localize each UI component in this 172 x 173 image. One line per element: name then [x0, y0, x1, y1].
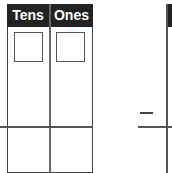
column-header-ones: Ones [50, 4, 93, 27]
minus-sign [140, 112, 153, 114]
answer-box-ones[interactable] [56, 32, 85, 62]
column-header-tens: Tens [7, 4, 49, 27]
answer-box-tens[interactable] [14, 32, 43, 62]
right-chart-border [166, 4, 168, 173]
sum-line-left [0, 126, 93, 128]
column-divider [49, 4, 51, 173]
